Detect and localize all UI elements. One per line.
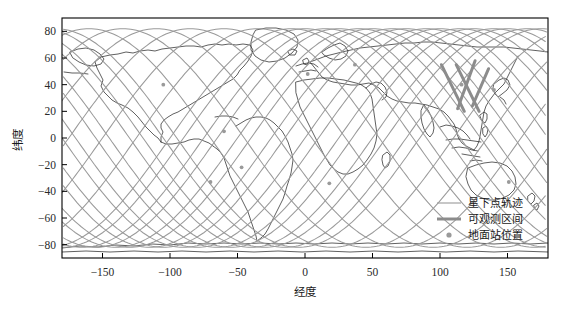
ground-station-marker xyxy=(327,181,331,185)
y-tick-label: −20 xyxy=(38,159,56,171)
ground-station-marker xyxy=(460,83,464,87)
x-tick-label: −100 xyxy=(158,266,182,278)
legend-item-label: 地面站位置 xyxy=(468,228,523,242)
y-tick-label: −40 xyxy=(38,185,56,197)
y-tick-label: 60 xyxy=(45,52,57,64)
ground-station-marker xyxy=(161,83,165,87)
satellite-groundtrack-figure: −150−100−50050100150 806040200−20−40−60−… xyxy=(0,0,570,309)
y-tick-label: 0 xyxy=(50,132,56,144)
ground-station-marker xyxy=(306,72,310,76)
ground-station-marker xyxy=(507,180,511,184)
x-tick-label: 50 xyxy=(367,266,379,278)
y-tick-label: 80 xyxy=(45,25,57,37)
y-tick-label: −60 xyxy=(38,212,56,224)
x-tick-label: 0 xyxy=(302,266,308,278)
legend: 星下点轨迹可观测区间地面站位置 xyxy=(437,196,523,242)
x-tick-label: −150 xyxy=(91,266,115,278)
ground-station-marker xyxy=(209,180,213,184)
plot-canvas: −150−100−50050100150 806040200−20−40−60−… xyxy=(0,0,570,309)
x-tick-label: 150 xyxy=(499,266,517,278)
ground-station-marker xyxy=(492,88,496,92)
y-tick-label: −80 xyxy=(38,239,56,251)
legend-item-label: 星下点轨迹 xyxy=(468,196,523,210)
ground-station-marker xyxy=(222,129,226,133)
ground-station-marker xyxy=(353,63,357,67)
x-tick-label: 100 xyxy=(431,266,449,278)
x-axis-title: 经度 xyxy=(294,285,317,299)
y-tick-label: 40 xyxy=(45,79,57,91)
ground-station-marker xyxy=(240,165,244,169)
x-tick-label: −50 xyxy=(229,266,247,278)
legend-dot-marker xyxy=(446,232,451,237)
legend-item-label: 可观测区间 xyxy=(468,213,523,226)
y-axis-title: 纬度 xyxy=(11,128,25,151)
y-tick-label: 20 xyxy=(45,105,57,117)
